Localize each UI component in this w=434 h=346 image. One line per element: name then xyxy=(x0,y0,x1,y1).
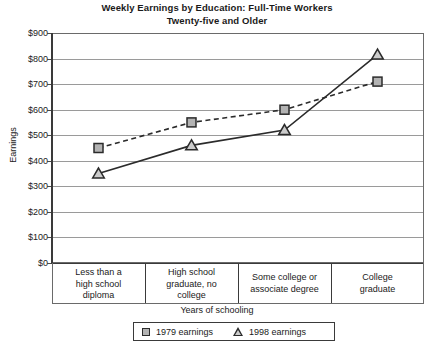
y-tick-label: $800 xyxy=(2,54,48,64)
x-axis-label: Years of schooling xyxy=(0,305,434,315)
category-label: High schoolgraduate, nocollege xyxy=(145,267,238,302)
category-label: Collegegraduate xyxy=(331,272,424,295)
y-axis-line xyxy=(51,33,53,264)
y-tick-label: $900 xyxy=(2,28,48,38)
category-label: Less than ahigh schooldiploma xyxy=(52,267,145,302)
y-tick-label: $0 xyxy=(2,258,48,268)
y-axis-tick-labels: $900$800$700$600$500$400$300$200$100$0 xyxy=(0,0,48,346)
chart-title: Weekly Earnings by Education: Full-Time … xyxy=(0,2,434,27)
legend-item-0: 1979 earnings xyxy=(142,327,213,337)
y-tick-label: $600 xyxy=(2,105,48,115)
category-label-line: graduate xyxy=(331,284,424,296)
category-label-line: Less than a xyxy=(52,267,145,279)
y-tick-label: $100 xyxy=(2,232,48,242)
legend-label-0: 1979 earnings xyxy=(156,327,213,337)
category-label: Some college orassociate degree xyxy=(238,272,331,295)
category-label-line: diploma xyxy=(52,290,145,302)
legend-label-1: 1998 earnings xyxy=(249,327,306,337)
square-marker-icon xyxy=(142,328,150,336)
y-tick-label: $300 xyxy=(2,181,48,191)
category-label-line: college xyxy=(145,290,238,302)
triangle-marker-icon xyxy=(233,327,243,336)
plot-area-border xyxy=(52,33,424,263)
y-tick-label: $500 xyxy=(2,130,48,140)
category-label-line: high school xyxy=(52,279,145,291)
y-tick-label: $400 xyxy=(2,156,48,166)
chart-container: Weekly Earnings by Education: Full-Time … xyxy=(0,0,434,346)
category-label-line: associate degree xyxy=(238,284,331,296)
legend-item-1: 1998 earnings xyxy=(233,327,306,337)
category-label-line: College xyxy=(331,272,424,284)
category-label-line: graduate, no xyxy=(145,279,238,291)
chart-legend: 1979 earnings 1998 earnings xyxy=(133,322,335,341)
y-tick-label: $700 xyxy=(2,79,48,89)
chart-title-line-2: Twenty-five and Older xyxy=(0,15,434,28)
chart-title-line-1: Weekly Earnings by Education: Full-Time … xyxy=(0,2,434,15)
y-tick-label: $200 xyxy=(2,207,48,217)
category-label-line: High school xyxy=(145,267,238,279)
category-label-line: Some college or xyxy=(238,272,331,284)
